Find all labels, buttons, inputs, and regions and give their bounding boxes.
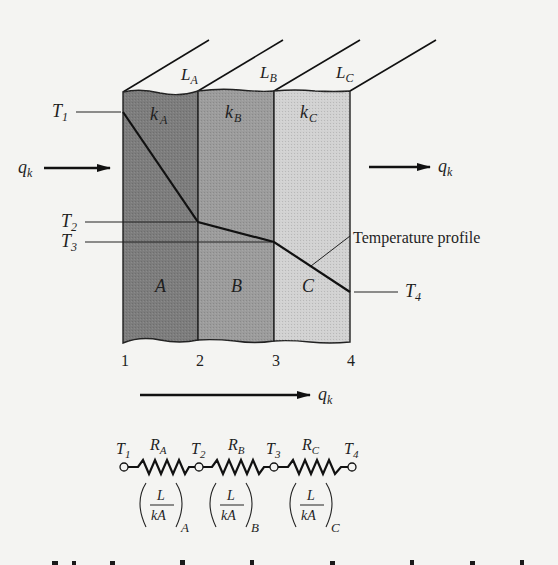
formula-c: L kA C (290, 483, 340, 535)
svg-text:A: A (180, 520, 189, 535)
temperature-profile-label: Temperature profile (353, 229, 480, 247)
wall-perspective-lines (123, 40, 436, 92)
svg-text:L: L (226, 488, 235, 503)
slab-c (274, 90, 350, 343)
caption-fragment (52, 560, 524, 565)
resistor-label-b: RB (227, 436, 245, 456)
temp-label-t1: T1 (52, 101, 68, 124)
svg-text:C: C (331, 520, 340, 535)
position-1: 1 (121, 352, 129, 369)
composite-wall-diagram: LA LB LC kA kB kC A B C T1 T2 T3 T4 Temp… (0, 0, 558, 565)
position-4: 4 (347, 352, 355, 369)
node-t2 (195, 463, 203, 471)
heat-flow-bottom-label: qk (318, 384, 333, 407)
thermal-resistance-circuit: T1 T2 T3 T4 RA RB RC L kA A L kA B (116, 436, 359, 535)
thickness-label-a: LA (180, 65, 198, 87)
heat-flow-out-label: qk (438, 156, 453, 179)
temp-label-t4: T4 (405, 281, 421, 304)
svg-text:L: L (306, 488, 315, 503)
resistor-a (128, 460, 195, 474)
svg-text:B: B (251, 520, 259, 535)
node-t3 (270, 463, 278, 471)
svg-text:kA: kA (301, 508, 316, 523)
circuit-label-t4: T4 (344, 440, 359, 460)
region-label-a: A (154, 276, 167, 296)
formula-a: L kA A (140, 483, 189, 535)
thickness-label-b: LB (259, 63, 277, 85)
svg-text:kA: kA (151, 508, 166, 523)
slab-b (198, 89, 274, 342)
heat-flow-in-label: qk (18, 157, 33, 180)
circuit-label-t1: T1 (116, 440, 130, 460)
resistor-label-c: RC (301, 436, 320, 456)
node-t1 (120, 463, 128, 471)
region-label-b: B (231, 276, 242, 296)
region-label-c: C (302, 276, 315, 296)
svg-text:kA: kA (221, 508, 236, 523)
resistor-label-a: RA (149, 436, 167, 456)
resistor-b (203, 460, 270, 474)
formula-b: L kA B (210, 483, 259, 535)
temp-label-t3: T3 (61, 231, 77, 254)
position-2: 2 (196, 352, 204, 369)
svg-text:L: L (156, 488, 165, 503)
circuit-label-t3: T3 (266, 440, 281, 460)
resistor-c (278, 460, 348, 474)
circuit-label-t2: T2 (191, 440, 206, 460)
thickness-label-c: LC (335, 63, 354, 85)
position-3: 3 (272, 352, 280, 369)
node-t4 (348, 463, 356, 471)
